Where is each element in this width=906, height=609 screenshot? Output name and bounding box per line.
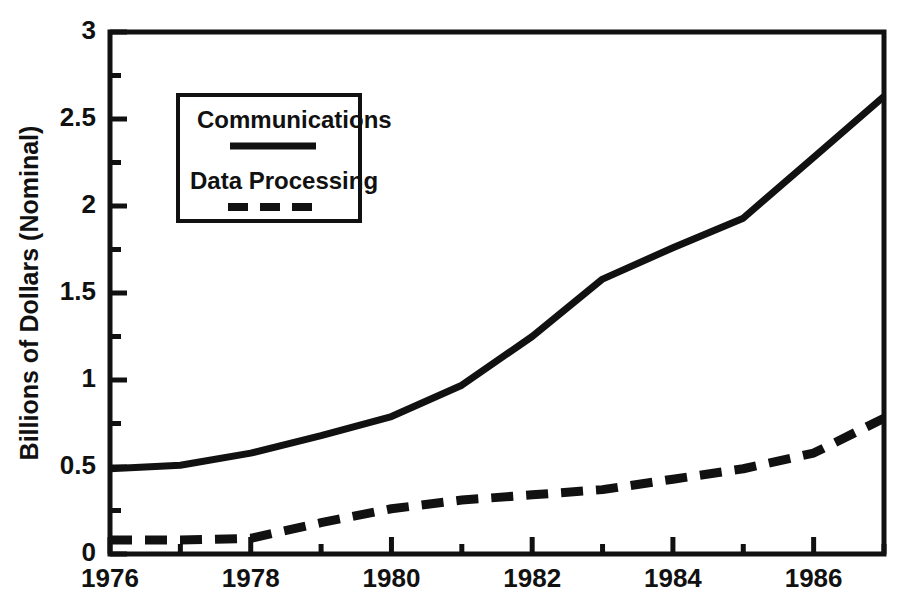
legend-label-communications: Communications [197, 106, 392, 133]
y-tick-label: 0.5 [60, 450, 96, 480]
x-tick-label: 1980 [363, 563, 421, 593]
y-axis-major-ticks [110, 32, 127, 554]
x-tick-label: 1984 [644, 563, 702, 593]
x-tick-label: 1978 [222, 563, 280, 593]
y-axis-title: Billions of Dollars (Nominal) [15, 126, 43, 461]
x-tick-label: 1986 [785, 563, 843, 593]
chart-figure: 00.511.522.53 197619781980198219841986 B… [0, 0, 906, 609]
chart-legend: Communications Data Processing [178, 95, 392, 221]
y-tick-label: 2 [82, 189, 96, 219]
x-tick-label: 1976 [81, 563, 139, 593]
y-tick-label: 1 [82, 363, 96, 393]
y-tick-label: 3 [82, 15, 96, 45]
series-line-data-processing [110, 418, 884, 540]
line-chart: 00.511.522.53 197619781980198219841986 B… [0, 0, 906, 609]
legend-label-data-processing: Data Processing [190, 167, 378, 194]
y-tick-label: 1.5 [60, 276, 96, 306]
x-tick-label: 1982 [503, 563, 561, 593]
y-tick-label: 2.5 [60, 102, 96, 132]
x-axis-tick-labels: 197619781980198219841986 [81, 563, 842, 593]
y-axis-tick-labels: 00.511.522.53 [60, 15, 96, 567]
